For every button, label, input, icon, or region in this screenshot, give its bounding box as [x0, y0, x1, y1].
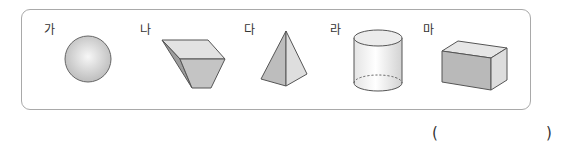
pyramid-icon — [258, 30, 312, 88]
rectangular-prism-icon — [441, 40, 509, 92]
answer-blank[interactable] — [445, 120, 541, 144]
shape-label-ga: 가 — [44, 24, 55, 36]
frustum-prism-icon — [160, 38, 230, 90]
shape-label-da: 다 — [244, 24, 255, 36]
shape-label-ra: 라 — [330, 24, 341, 36]
cylinder-icon — [352, 28, 404, 94]
answer-close-paren: ) — [546, 124, 552, 142]
answer-open-paren: ( — [432, 124, 438, 142]
sphere-icon — [64, 34, 114, 84]
shape-label-na: 나 — [140, 24, 151, 36]
shape-label-ma: 마 — [423, 24, 434, 36]
